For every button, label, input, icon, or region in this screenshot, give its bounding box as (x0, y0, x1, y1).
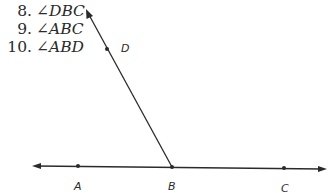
arrow-left-icon (32, 163, 41, 169)
ray-bd (86, 9, 172, 167)
label-a: A (73, 180, 82, 193)
label-d: D (121, 42, 129, 55)
angle-diagram: A B C D (0, 0, 329, 193)
point-a (76, 164, 80, 168)
point-c (282, 166, 286, 170)
arrow-up-icon (86, 9, 93, 19)
label-b: B (168, 180, 176, 193)
point-b (170, 165, 174, 169)
label-c: C (281, 182, 289, 193)
point-d (105, 47, 109, 51)
arrow-right-icon (318, 166, 327, 172)
